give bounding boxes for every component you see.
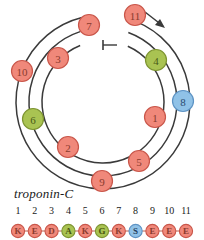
sequence-panel: troponin-C 1234567891011 KEDAKGKSEEE	[0, 186, 204, 240]
residue-node-1[interactable]: K	[11, 224, 24, 237]
wheel-node-circle	[48, 48, 69, 69]
residue-node-circle	[28, 224, 41, 237]
residue-index-5: 5	[83, 205, 88, 216]
residue-node-circle	[95, 224, 108, 237]
residue-node-circle	[11, 224, 24, 237]
residue-index-8: 8	[133, 205, 138, 216]
residue-node-circle	[179, 224, 192, 237]
residue-node-circle	[62, 224, 75, 237]
wheel-node-circle	[145, 107, 166, 128]
residue-node-group: KEDAKGKSEEE	[11, 224, 192, 237]
wheel-node-8[interactable]: 8	[173, 91, 194, 112]
residue-index-labels: 1234567891011	[16, 205, 191, 216]
residue-node-5[interactable]: K	[79, 224, 92, 237]
residue-index-7: 7	[116, 205, 121, 216]
wheel-node-circle	[12, 61, 33, 82]
wheel-node-3[interactable]: 3	[48, 48, 69, 69]
residue-node-4[interactable]: A	[62, 224, 75, 237]
wheel-node-circle	[146, 50, 167, 71]
residue-index-10: 10	[164, 205, 174, 216]
residue-index-1: 1	[16, 205, 21, 216]
wheel-node-circle	[125, 5, 146, 26]
wheel-node-2[interactable]: 2	[58, 137, 79, 158]
wheel-node-circle	[58, 137, 79, 158]
spiral-arcs	[16, 12, 190, 189]
wheel-node-circle	[79, 15, 100, 36]
residue-node-3[interactable]: D	[45, 224, 58, 237]
residue-node-circle	[146, 224, 159, 237]
residue-node-10[interactable]: E	[163, 224, 176, 237]
residue-index-3: 3	[49, 205, 54, 216]
sequence-strip: 1234567891011 KEDAKGKSEEE	[0, 202, 204, 240]
residue-node-circle	[129, 224, 142, 237]
residue-index-11: 11	[181, 205, 191, 216]
residue-node-8[interactable]: S	[129, 224, 142, 237]
residue-node-circle	[79, 224, 92, 237]
residue-index-4: 4	[66, 205, 71, 216]
wheel-node-6[interactable]: 6	[23, 109, 44, 130]
wheel-node-circle	[23, 109, 44, 130]
residue-node-circle	[45, 224, 58, 237]
wheel-node-11[interactable]: 11	[125, 5, 146, 26]
residue-node-2[interactable]: E	[28, 224, 41, 237]
start-tick-marker	[103, 40, 117, 50]
residue-index-2: 2	[32, 205, 37, 216]
residue-node-11[interactable]: E	[179, 224, 192, 237]
residue-node-circle	[112, 224, 125, 237]
residue-index-6: 6	[100, 205, 105, 216]
wheel-node-7[interactable]: 7	[79, 15, 100, 36]
wheel-node-1[interactable]: 1	[145, 107, 166, 128]
residue-node-circle	[163, 224, 176, 237]
wheel-node-10[interactable]: 10	[12, 61, 33, 82]
residue-node-6[interactable]: G	[95, 224, 108, 237]
wheel-node-5[interactable]: 5	[129, 151, 150, 172]
residue-index-9: 9	[150, 205, 155, 216]
residue-node-9[interactable]: E	[146, 224, 159, 237]
wheel-node-circle	[129, 151, 150, 172]
wheel-node-circle	[173, 91, 194, 112]
direction-arrow-icon	[145, 12, 165, 28]
helical-wheel-diagram: 1234567891011	[0, 0, 204, 195]
wheel-node-4[interactable]: 4	[146, 50, 167, 71]
sequence-title: troponin-C	[14, 186, 73, 202]
residue-node-7[interactable]: K	[112, 224, 125, 237]
